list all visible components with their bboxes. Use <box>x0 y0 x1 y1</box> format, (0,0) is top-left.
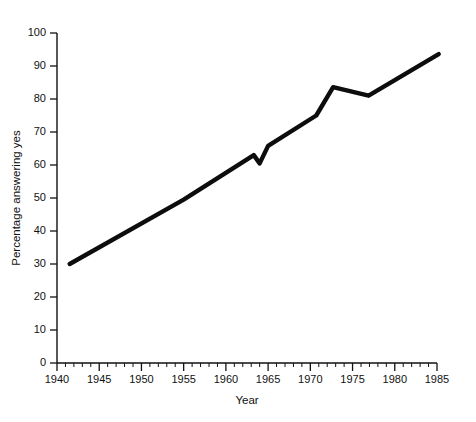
x-tick-label: 1945 <box>87 373 111 385</box>
x-axis-tick-labels: 1940194519501955196019651970197519801985 <box>45 373 449 385</box>
y-axis-title: Percentage answering yes <box>10 130 22 266</box>
y-axis-tick-labels: 0102030405060708090100 <box>28 26 46 368</box>
x-tick-label: 1950 <box>129 373 153 385</box>
y-tick-label: 10 <box>34 323 46 335</box>
y-tick-label: 20 <box>34 290 46 302</box>
line-chart: 0102030405060708090100 19401945195019551… <box>0 0 476 422</box>
y-axis-ticks <box>50 33 57 363</box>
y-tick-label: 100 <box>28 26 46 38</box>
x-axis-ticks <box>57 363 437 371</box>
x-tick-label: 1970 <box>298 373 322 385</box>
y-tick-label: 90 <box>34 59 46 71</box>
x-tick-label: 1965 <box>256 373 280 385</box>
y-tick-label: 30 <box>34 257 46 269</box>
y-tick-label: 40 <box>34 224 46 236</box>
y-tick-label: 60 <box>34 158 46 170</box>
x-tick-label: 1975 <box>340 373 364 385</box>
y-tick-label: 50 <box>34 191 46 203</box>
y-tick-label: 70 <box>34 125 46 137</box>
chart-canvas: 0102030405060708090100 19401945195019551… <box>0 0 476 422</box>
x-tick-label: 1955 <box>171 373 195 385</box>
x-tick-label: 1960 <box>214 373 238 385</box>
y-tick-label: 0 <box>40 356 46 368</box>
x-tick-label: 1980 <box>383 373 407 385</box>
x-tick-label: 1940 <box>45 373 69 385</box>
x-axis-title: Year <box>235 394 258 406</box>
y-tick-label: 80 <box>34 92 46 104</box>
x-tick-label: 1985 <box>425 373 449 385</box>
data-series-line <box>70 54 439 264</box>
